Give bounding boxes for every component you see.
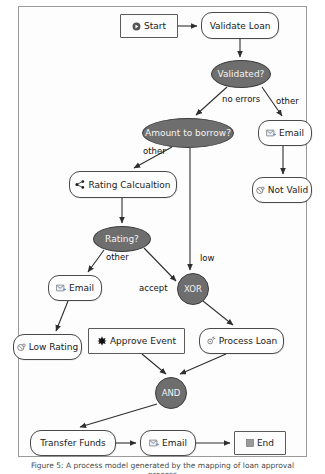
node-validate-loan[interactable]: Validate Loan (201, 12, 279, 39)
node-email-3-label: Email (162, 438, 187, 448)
node-xor-label: XOR (184, 284, 202, 294)
node-xor-gateway[interactable]: XOR (177, 273, 209, 305)
error-icon (256, 186, 265, 195)
node-email-1-label: Email (279, 128, 304, 138)
node-validated-gateway[interactable]: Validated? (211, 60, 271, 88)
node-rating-gateway[interactable]: Rating? (93, 226, 151, 252)
node-low-rating-label: Low Rating (29, 342, 79, 352)
edge-label-accept: accept (139, 283, 168, 293)
edge-label-other-rating: other (106, 252, 129, 262)
node-not-valid[interactable]: Not Valid (252, 177, 312, 203)
node-transfer-funds[interactable]: Transfer Funds (30, 430, 116, 456)
node-low-rating[interactable]: Low Rating (13, 334, 82, 360)
node-start[interactable]: Start (120, 14, 178, 38)
edge-label-other-amount: other (143, 146, 166, 156)
node-rating-calculation-label: Rating Calcualtion (88, 180, 170, 190)
email-icon (149, 439, 159, 447)
node-end[interactable]: End (234, 431, 286, 455)
node-email-3[interactable]: Email (140, 430, 196, 456)
edge-label-other-validated: other (276, 96, 299, 106)
node-email-2[interactable]: Email (48, 275, 102, 301)
node-process-loan-label: Process Loan (219, 336, 278, 346)
stop-icon (246, 439, 254, 447)
node-rating-label: Rating? (105, 234, 139, 244)
node-and-gateway[interactable]: AND (155, 377, 187, 409)
node-and-label: AND (162, 388, 181, 398)
email-icon (56, 284, 66, 292)
email-icon (266, 129, 276, 137)
star-icon (97, 336, 107, 346)
node-amount-to-borrow-gateway[interactable]: Amount to borrow? (142, 118, 234, 148)
diagram-canvas: Start Validate Loan Validated? Amount to… (0, 0, 325, 474)
node-not-valid-label: Not Valid (268, 185, 308, 195)
node-transfer-funds-label: Transfer Funds (40, 438, 106, 448)
figure-caption: Figure 5: A process model generated by t… (18, 461, 307, 474)
edge-label-no-errors: no errors (222, 94, 260, 104)
node-rating-calculation[interactable]: Rating Calcualtion (69, 171, 177, 198)
node-email-1[interactable]: Email (258, 120, 312, 146)
node-validated-label: Validated? (218, 69, 265, 79)
node-start-label: Start (144, 21, 166, 31)
node-approve-event[interactable]: Approve Event (88, 328, 185, 354)
edge-label-low: low (200, 253, 215, 263)
share-icon (75, 180, 85, 189)
gear-icon (206, 336, 216, 346)
node-end-label: End (257, 438, 274, 448)
error-icon (17, 343, 26, 352)
node-approve-event-label: Approve Event (110, 336, 176, 346)
node-amount-to-borrow-label: Amount to borrow? (145, 128, 231, 138)
node-email-2-label: Email (69, 283, 94, 293)
node-process-loan[interactable]: Process Loan (199, 328, 284, 354)
node-validate-loan-label: Validate Loan (210, 21, 271, 31)
play-circle-icon (132, 22, 141, 31)
